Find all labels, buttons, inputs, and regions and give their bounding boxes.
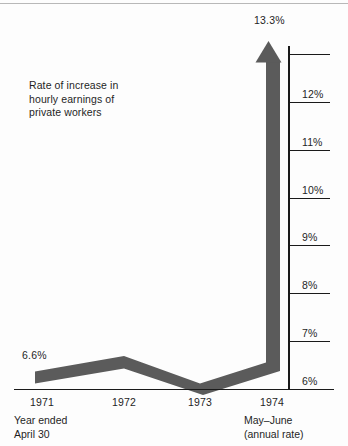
footnote-right: May–June (annual rate) <box>244 414 304 441</box>
footnote-left-line-1: Year ended <box>14 414 67 428</box>
footnote-left: Year ended April 30 <box>14 414 67 441</box>
annotation-start-value: 6.6% <box>22 349 47 361</box>
x-tick-label-1973: 1973 <box>188 396 212 408</box>
ribbon-path <box>35 62 280 395</box>
x-tick-label-1971: 1971 <box>30 396 54 408</box>
x-tick-label-1972: 1972 <box>112 396 136 408</box>
series-ribbon <box>0 0 348 446</box>
footnote-left-line-2: April 30 <box>14 428 67 442</box>
footnote-right-line-1: May–June <box>244 414 304 428</box>
x-axis-line <box>14 389 334 390</box>
footnote-right-line-2: (annual rate) <box>244 428 304 442</box>
x-tick-label-1974: 1974 <box>260 396 284 408</box>
annotation-end-value: 13.3% <box>254 14 285 26</box>
arrow-head-icon <box>256 41 282 63</box>
chart-container: Rate of increase in hourly earnings of p… <box>0 0 348 446</box>
